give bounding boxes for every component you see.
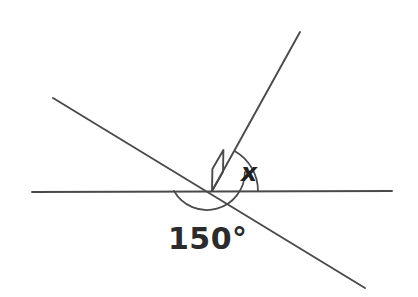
angle-label-x: x bbox=[241, 158, 257, 187]
angle-label-150: 150° bbox=[168, 221, 248, 256]
transversal-line bbox=[53, 98, 365, 288]
geometry-figure: 150° x bbox=[0, 0, 418, 297]
right-angle-marker bbox=[212, 150, 223, 191]
